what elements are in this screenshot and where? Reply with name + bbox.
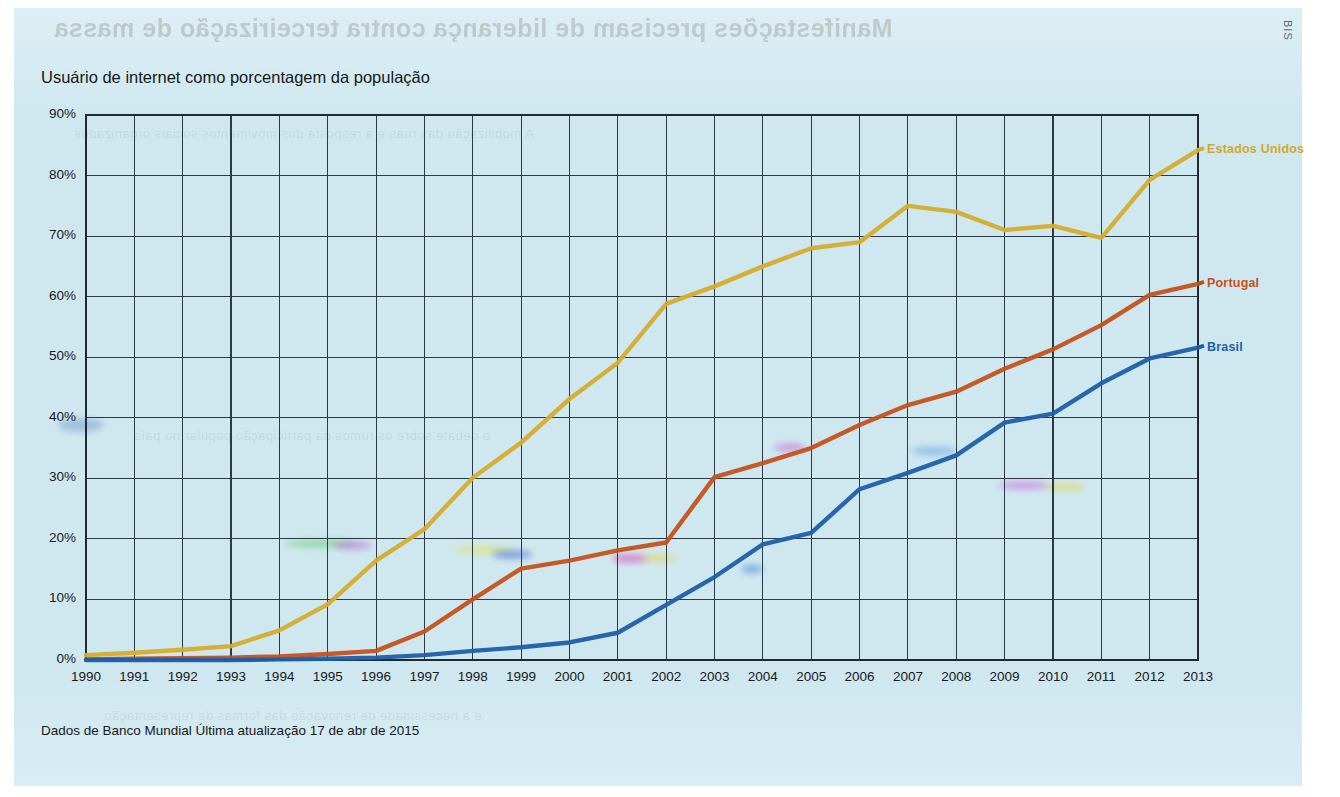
chart-plot-frame — [86, 115, 1198, 660]
y-axis-tick-90pct: 90% — [24, 106, 76, 121]
y-axis-tick-0pct: 0% — [24, 651, 76, 666]
chart-gridlines — [86, 115, 1198, 660]
series-label-estados-unidos: Estados Unidos — [1207, 142, 1304, 156]
series-label-brasil: Brasil — [1207, 340, 1243, 354]
series-label-portugal: Portugal — [1207, 276, 1259, 290]
y-axis-tick-30pct: 30% — [24, 469, 76, 484]
y-axis-tick-80pct: 80% — [24, 167, 76, 182]
page-root: Manifestações precisam de liderança cont… — [0, 0, 1340, 797]
y-axis-tick-50pct: 50% — [24, 348, 76, 363]
y-axis-tick-20pct: 20% — [24, 530, 76, 545]
x-axis-tick-2013: 2013 — [1168, 669, 1228, 684]
y-axis-tick-70pct: 70% — [24, 227, 76, 242]
y-axis-tick-10pct: 10% — [24, 590, 76, 605]
chart-series-lines — [86, 148, 1204, 660]
chart-source-footnote: Dados de Banco Mundial Última atualizaçã… — [41, 723, 419, 738]
y-axis-tick-40pct: 40% — [24, 409, 76, 424]
y-axis-tick-60pct: 60% — [24, 288, 76, 303]
